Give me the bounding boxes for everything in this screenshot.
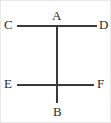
geometry-line-diagram: A B C D E F [0,0,111,123]
line-segment-ab [56,25,58,103]
line-segment-ef [17,84,94,86]
point-label-b: B [53,105,62,118]
point-label-f: F [97,77,104,90]
point-label-c: C [4,18,13,31]
point-label-a: A [52,9,62,22]
point-label-e: E [4,77,12,90]
point-label-d: D [99,18,109,31]
line-segment-cd [17,25,97,27]
